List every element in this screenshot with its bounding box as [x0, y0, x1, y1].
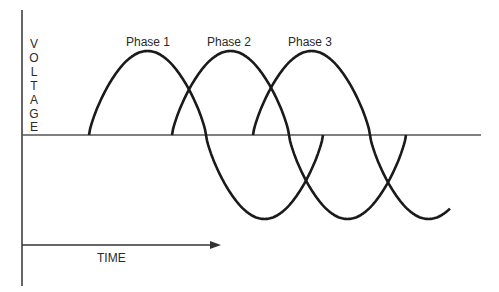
phase-1-label: Phase 1 [126, 35, 170, 49]
svg-text:E: E [30, 120, 38, 134]
svg-text:T: T [30, 79, 38, 93]
svg-text:A: A [30, 93, 38, 107]
time-label: TIME [97, 251, 126, 265]
three-phase-voltage-diagram: V O L T A G E TIME Phase 1 Phase 2 Phase… [0, 0, 499, 292]
phase-2-label: Phase 2 [207, 35, 251, 49]
svg-text:L: L [31, 65, 38, 79]
svg-text:G: G [29, 107, 38, 121]
time-arrow-head [210, 241, 221, 249]
svg-text:O: O [29, 51, 38, 65]
voltage-label: V O L T A G E [29, 37, 38, 134]
phase-3-label: Phase 3 [288, 35, 332, 49]
svg-text:V: V [30, 37, 38, 51]
